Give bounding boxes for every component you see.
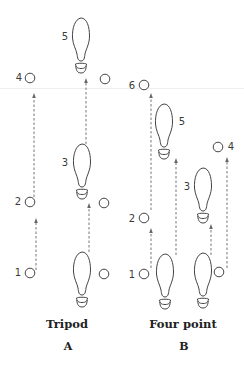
crutch-position-circle-icon	[213, 142, 223, 152]
crutch-position-circle-icon	[25, 73, 35, 83]
crutch-position-circle-icon	[139, 80, 149, 90]
step-number-label: 5	[62, 32, 68, 42]
dashed-arrow-icon	[84, 78, 88, 144]
panel-b-letter: B	[179, 340, 188, 353]
step-number-label: 1	[15, 268, 21, 278]
dashed-arrow-icon	[149, 228, 153, 268]
step-number-label: 6	[129, 81, 135, 91]
crutch-position-circle-icon	[25, 268, 35, 278]
footprint-icon	[72, 18, 89, 73]
dashed-arrow-icon	[149, 93, 153, 210]
crutch-position-circle-icon	[139, 213, 149, 223]
dashed-arrow-icon	[174, 158, 178, 255]
step-number-label: 3	[184, 182, 190, 192]
crutch-position-circle-icon	[99, 198, 109, 208]
step-number-label: 4	[228, 142, 234, 152]
footprint-icon	[73, 252, 90, 307]
panel-b	[139, 80, 229, 309]
gait-pattern-diagram: Tripod A Four point B 42153642153	[0, 0, 244, 370]
crutch-position-circle-icon	[139, 269, 149, 279]
crutch-position-circle-icon	[99, 269, 109, 279]
panel-a-title: Tripod	[46, 317, 88, 331]
dashed-arrow-icon	[225, 157, 229, 268]
footprint-icon	[194, 168, 211, 223]
step-number-label: 2	[129, 214, 135, 224]
panel-a-letter: A	[64, 340, 73, 353]
step-number-label: 5	[179, 117, 185, 127]
footprint-icon	[155, 104, 172, 159]
footprint-icon	[194, 253, 211, 308]
step-number-label: 1	[129, 270, 135, 280]
crutch-position-circle-icon	[214, 267, 224, 277]
dashed-arrow-icon	[34, 218, 38, 270]
crutch-position-circle-icon	[25, 197, 35, 207]
diagram-artwork	[0, 0, 244, 370]
step-number-label: 4	[16, 73, 22, 83]
dashed-arrow-icon	[32, 93, 36, 197]
panel-b-title: Four point	[149, 317, 216, 331]
dashed-arrow-icon	[87, 203, 91, 252]
crutch-position-circle-icon	[100, 74, 110, 84]
dashed-arrow-icon	[209, 224, 213, 255]
footprint-icon	[156, 254, 173, 309]
step-number-label: 2	[15, 197, 21, 207]
step-number-label: 3	[62, 158, 68, 168]
footprint-icon	[73, 144, 90, 199]
